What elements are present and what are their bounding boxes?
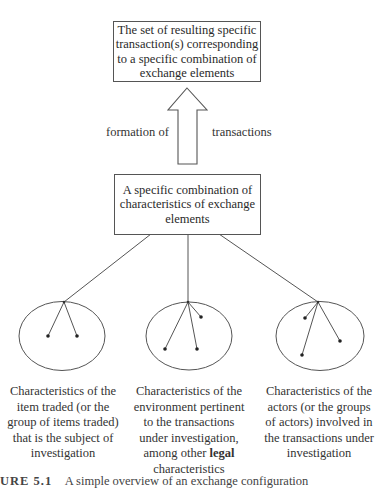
desc-line: Characteristics of the [0,384,126,400]
desc-line-text: among other [144,446,210,460]
desc-line: item traded (or the [0,400,126,416]
combination-text: A specific combination of characteristic… [115,183,260,227]
desc-line: to the transactions [126,415,252,431]
figure-caption-text: A simple overview of an exchange configu… [65,474,309,488]
desc-bold-term: legal [209,446,234,460]
resulting-transactions-box: The set of resulting specific transactio… [113,21,261,82]
desc-line: under investigation, [126,431,252,447]
upward-arrow-icon [168,88,207,164]
combination-box: A specific combination of characteristic… [114,174,261,235]
desc-line: of actors) involved in [256,415,382,431]
group-environment-description: Characteristics of the environment perti… [126,384,252,478]
connector-line-right [219,234,318,302]
desc-line: Characteristics of the [256,384,382,400]
group-item-ellipse [19,301,105,371]
desc-line: that is the subject of [0,431,126,447]
desc-line: environment pertinent [126,400,252,416]
figure-caption: URE 5.1 A simple overview of an exchange… [0,474,308,489]
group-item-description: Characteristics of the item traded (or t… [0,384,126,462]
desc-line: the transactions under [256,431,382,447]
figure-label: URE 5.1 [0,474,52,488]
group-environment-ellipse [146,301,232,370]
group-actors-description: Characteristics of the actors (or the gr… [256,384,382,462]
group-actors-ellipse [276,301,364,371]
desc-line: investigation [0,446,126,462]
resulting-transactions-text: The set of resulting specific transactio… [114,23,260,81]
desc-line: Characteristics of the [126,384,252,400]
desc-line: actors (or the groups [256,400,382,416]
arrow-label-left: formation of [106,125,169,140]
arrow-label-right: transactions [212,125,272,140]
desc-line: group of items traded) [0,415,126,431]
desc-line: investigation [256,446,382,462]
connector-line-left [64,234,151,302]
desc-line: among other legal [126,446,252,462]
